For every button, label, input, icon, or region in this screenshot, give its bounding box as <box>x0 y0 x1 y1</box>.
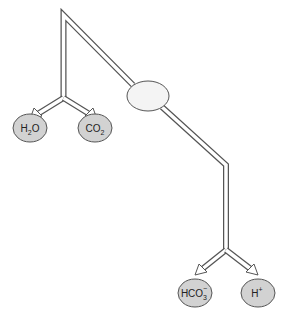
reaction-diagram: H2O CO2 HCO3− H+ <box>0 0 289 318</box>
product-h-plus: H+ <box>241 279 275 307</box>
product-hco3: HCO3− <box>178 279 212 307</box>
product-h2o: H2O <box>13 114 47 142</box>
center-node <box>127 81 169 111</box>
right-fork-arrows <box>195 250 258 275</box>
product-co2: CO2 <box>78 114 112 142</box>
